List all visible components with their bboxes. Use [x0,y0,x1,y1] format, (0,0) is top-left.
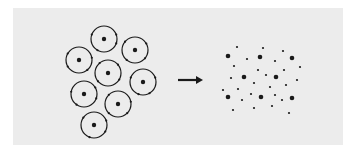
bound-electron [75,104,77,106]
bound-electron [145,42,147,44]
nucleus [133,48,137,52]
free-electron [283,69,285,71]
bound-electron [82,116,84,118]
free-electron [285,84,287,86]
bound-electron [95,97,97,99]
nucleus [77,58,81,62]
free-electron [265,74,267,76]
free-electron [288,112,290,114]
bound-electron [108,112,110,114]
free-nucleus [242,75,247,80]
nucleus [116,102,120,106]
bound-electron [126,59,128,61]
atom [81,112,107,138]
bound-electron [88,136,90,138]
bound-electron [126,112,128,114]
bound-electron [115,33,117,35]
bound-electron [115,42,117,44]
atom [70,81,97,107]
free-electron [262,47,264,49]
free-nucleus [258,55,263,60]
nucleus [82,92,86,96]
free-electron [246,58,248,60]
bound-electron [94,86,96,88]
bound-electron [124,41,126,43]
bound-electron [67,65,69,67]
arrow-icon [178,76,203,84]
bound-electron [108,94,110,96]
free-nucleus [274,75,279,80]
bound-electron [91,33,93,35]
free-nucleus [290,96,295,101]
atom [130,69,157,95]
bound-electron [67,52,69,54]
bound-electron [105,119,107,121]
bound-electron [86,69,88,71]
free-electron [232,109,234,111]
free-nucleus [226,54,231,59]
free-electron [257,69,259,71]
atom [95,60,121,86]
arrow-head [196,76,203,84]
bound-electron [130,76,132,78]
bound-electron [117,64,119,66]
free-electron [281,99,283,101]
free-electron [274,60,276,62]
free-electron [253,107,255,109]
free-electron [274,94,276,96]
free-electron [237,88,239,90]
atom [66,47,93,73]
free-electron [296,79,298,81]
plasma-group [222,46,301,114]
bound-electron [154,76,156,78]
free-nucleus [259,95,264,100]
free-nucleus [226,95,231,100]
bound-electron [97,80,99,82]
free-electron [230,77,232,79]
nucleus [92,123,96,127]
bound-electron [130,101,132,103]
free-electron [233,65,235,67]
free-electron [250,93,252,95]
free-nucleus [290,56,295,61]
atom [122,37,148,63]
atoms-group [66,26,156,138]
bound-electron [99,62,101,64]
free-electron [241,99,243,101]
bound-electron [91,57,93,59]
free-electron [282,50,284,52]
free-electron [269,86,271,88]
bound-electron [104,130,106,132]
free-electron [299,66,301,68]
nucleus [141,80,145,84]
atom [105,91,132,117]
bound-electron [118,78,120,80]
bound-electron [70,91,72,93]
free-electron [253,82,255,84]
free-electron [271,105,273,107]
nucleus [102,37,106,41]
free-electron [222,89,224,91]
bound-electron [137,93,139,95]
nucleus [106,71,110,75]
bound-electron [144,57,146,59]
bound-electron [96,49,98,51]
atom [91,26,118,52]
bound-electron [148,92,150,94]
atoms-to-plasma-diagram [0,0,353,156]
free-electron [236,46,238,48]
